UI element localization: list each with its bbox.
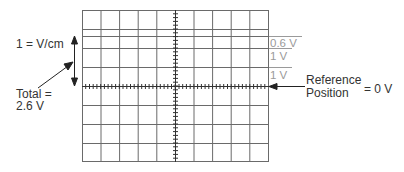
total-label-line2: 2.6 V <box>16 100 44 112</box>
total-span-arrow <box>72 36 78 86</box>
scale-label: 1 = V/cm <box>16 38 64 50</box>
reference-value: = 0 V <box>364 83 392 95</box>
segment-label-1v-upper: 1 V <box>270 50 287 62</box>
reference-label-line1: Reference <box>306 74 361 86</box>
reference-arrow <box>269 84 305 90</box>
total-pointer-arrow <box>38 62 73 88</box>
segment-label-1v-lower: 1 V <box>270 69 287 81</box>
segment-label-0-6v: 0.6 V <box>270 37 297 49</box>
reference-label-line2: Position <box>306 87 349 99</box>
